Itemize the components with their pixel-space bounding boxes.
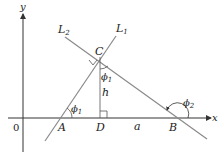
- right-angle-marker-D: [100, 111, 107, 118]
- point-B-label: B: [168, 121, 177, 134]
- angle-phi1-C-label: ϕ1: [101, 71, 112, 84]
- right-angle-marker-C: [89, 60, 97, 65]
- height-label: h: [102, 86, 109, 99]
- x-axis-label: x: [212, 112, 218, 123]
- origin-label: 0: [13, 122, 19, 133]
- geometry-diagram: y x 0 L2 L1 C A D B h a ϕ1 ϕ1 ϕ2: [0, 0, 218, 152]
- line-L1-label: L1: [115, 22, 128, 36]
- point-A-label: A: [57, 121, 66, 134]
- point-C-label: C: [95, 45, 104, 58]
- base-label: a: [134, 120, 141, 133]
- angle-phi1-A-label: ϕ1: [71, 103, 82, 116]
- y-axis-label: y: [19, 1, 26, 12]
- angle-phi2-B-label: ϕ2: [183, 97, 195, 110]
- line-L2-label: L2: [57, 23, 70, 37]
- point-D-label: D: [95, 121, 105, 134]
